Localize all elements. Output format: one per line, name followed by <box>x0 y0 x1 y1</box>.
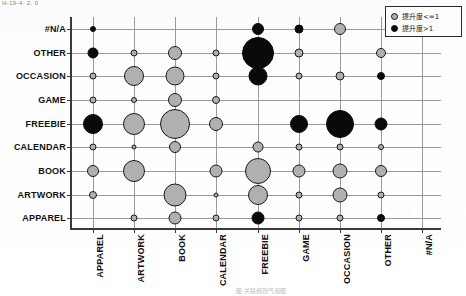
x-axis-label-book: BOOK <box>177 234 187 262</box>
bubble-other-freebie <box>375 117 388 130</box>
bubble-game-book <box>292 164 305 177</box>
x-axis-label-game: GAME <box>301 234 311 262</box>
bubble-calendar-occasion <box>213 73 220 80</box>
bubble-calendar-game <box>212 96 220 104</box>
bubble-artwork-apparel <box>130 215 137 222</box>
x-axis-label-na: #N/A <box>424 234 434 255</box>
circle-black-icon <box>391 25 398 32</box>
bubble-occasion-apparel <box>336 215 343 222</box>
circle-gray-icon <box>391 13 398 20</box>
y-axis-tick <box>67 195 72 196</box>
bubble-apparel-game <box>89 96 96 103</box>
bubble-occasion-freebie <box>326 110 354 138</box>
x-axis-label-calendar: CALENDAR <box>218 234 228 286</box>
x-axis-label-freebie: FREEBIE <box>260 234 270 274</box>
bubble-artwork-occasion <box>124 66 144 86</box>
gridline-horizontal <box>72 100 441 101</box>
x-axis-label-occasion: OCCASION <box>342 234 352 284</box>
bubble-game-apparel <box>295 215 302 222</box>
y-axis-tick <box>67 218 72 219</box>
x-axis-labels: APPARELARTWORKBOOKCALENDARFREEBIEGAMEOCC… <box>70 232 441 292</box>
bubble-artwork-game <box>131 97 137 103</box>
y-axis-label-other: OTHER <box>34 48 67 58</box>
bubble-artwork-calendar <box>131 145 136 150</box>
bubble-calendar-book <box>210 164 223 177</box>
bubble-calendar-other <box>213 49 220 56</box>
bubble-apparel-other <box>87 47 98 58</box>
bubble-apparel-artwork <box>89 191 97 199</box>
x-axis-label-artwork: ARTWORK <box>136 234 146 282</box>
bottom-cropped-caption: 图 关联规则气泡图 <box>236 286 286 294</box>
y-axis-label-artwork: ARTWORK <box>18 190 66 200</box>
bubble-book-apparel <box>169 212 182 225</box>
bubble-game-calendar <box>295 144 302 151</box>
bubble-occasion-na <box>334 23 346 35</box>
bubble-occasion-occasion <box>335 72 344 81</box>
bubble-calendar-apparel <box>213 215 220 222</box>
bubble-book-freebie <box>160 109 190 139</box>
y-axis-tick <box>67 53 72 54</box>
bubble-other-other <box>376 48 386 58</box>
bubble-game-other <box>294 48 303 57</box>
bubble-freebie-apparel <box>251 212 264 225</box>
bubble-artwork-book <box>123 160 145 182</box>
bubble-occasion-calendar <box>336 144 343 151</box>
bubble-freebie-book <box>245 158 271 184</box>
bubble-freebie-na <box>252 23 264 35</box>
bubble-other-apparel <box>377 214 385 222</box>
bubble-freebie-calendar <box>252 142 263 153</box>
bubble-book-calendar <box>169 141 181 153</box>
bubble-apparel-book <box>87 165 99 177</box>
bubble-apparel-calendar <box>89 144 96 151</box>
bubble-freebie-occasion <box>248 67 267 86</box>
y-axis-tick <box>67 147 72 148</box>
bubble-freebie-artwork <box>248 185 268 205</box>
x-axis-label-other: OTHER <box>383 234 393 267</box>
bubble-game-artwork <box>295 191 302 198</box>
bubble-other-calendar <box>378 144 384 150</box>
y-axis-tick <box>67 171 72 172</box>
bubble-chart-figure: H-19-4: 2. 0 APPARELARTWORKBOOKCALENDARF… <box>0 0 466 296</box>
y-axis-label-occasion: OCCASION <box>16 71 66 81</box>
bubble-artwork-other <box>130 49 137 56</box>
bubble-other-book <box>375 165 387 177</box>
bubble-other-occasion <box>377 72 385 80</box>
legend: 提升度<=1 提升度>1 <box>385 6 462 37</box>
bubble-book-occasion <box>166 67 185 86</box>
bubble-game-freebie <box>290 115 308 133</box>
bubble-freebie-other <box>242 37 274 69</box>
legend-item-high-label: 提升度>1 <box>402 23 433 33</box>
gridline-vertical <box>422 17 423 228</box>
y-axis-label-calendar: CALENDAR <box>14 142 66 152</box>
bubble-artwork-freebie <box>123 113 145 135</box>
y-axis-label-book: BOOK <box>38 166 66 176</box>
y-axis-tick <box>67 100 72 101</box>
y-axis-label-apparel: APPAREL <box>22 213 66 223</box>
bubble-other-artwork <box>378 191 385 198</box>
bubble-apparel-na <box>90 26 96 32</box>
bubble-book-game <box>168 93 182 107</box>
y-axis-labels: APPARELARTWORKBOOKCALENDARFREEBIEGAMEOCC… <box>0 17 66 230</box>
bubble-game-na <box>294 24 303 33</box>
legend-item-low-label: 提升度<=1 <box>402 11 439 21</box>
bubble-calendar-freebie <box>209 117 223 131</box>
bubble-book-artwork <box>164 183 187 206</box>
bubble-game-occasion <box>295 73 302 80</box>
bubble-occasion-book <box>332 163 347 178</box>
x-axis-label-apparel: APPAREL <box>95 234 105 278</box>
plot-area <box>70 17 441 230</box>
y-axis-tick <box>67 124 72 125</box>
y-axis-label-na: #N/A <box>45 24 66 34</box>
legend-item-high: 提升度>1 <box>391 22 457 34</box>
top-cropped-header: H-19-4: 2. 0 <box>2 0 38 6</box>
bubble-book-other <box>168 46 182 60</box>
legend-item-low: 提升度<=1 <box>391 10 457 22</box>
bubble-apparel-occasion <box>89 73 96 80</box>
y-axis-label-freebie: FREEBIE <box>26 119 66 129</box>
y-axis-tick <box>67 29 72 30</box>
y-axis-tick <box>67 76 72 77</box>
bubble-apparel-freebie <box>83 114 103 134</box>
y-axis-label-game: GAME <box>38 95 66 105</box>
bubble-occasion-artwork <box>332 187 347 202</box>
bubble-calendar-artwork <box>214 192 219 197</box>
